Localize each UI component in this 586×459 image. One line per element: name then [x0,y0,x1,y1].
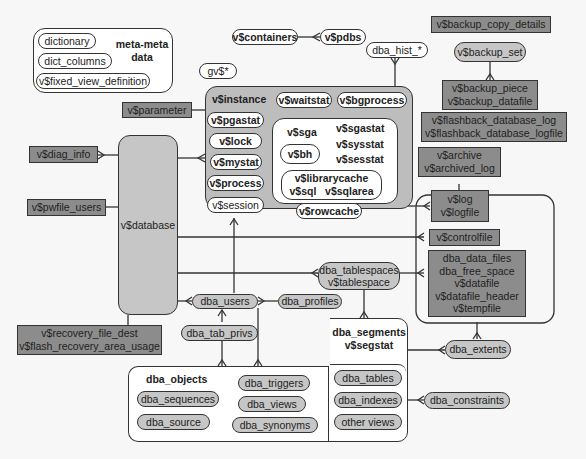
datafile-header-label: v$datafile_header [435,290,518,303]
lock-label: v$lock [219,135,252,147]
sql-label: v$sql [289,185,316,197]
logfile-label: v$logfile [441,206,480,219]
rowcache-node[interactable]: v$rowcache [296,203,362,219]
bh-label: v$bh [288,148,313,160]
backup-datafile-label: v$backup_datafile [448,95,533,108]
dba-triggers-label: dba_triggers [245,377,303,389]
bh-node[interactable]: v$bh [280,144,320,164]
log-node[interactable]: v$log v$logfile [431,190,489,222]
dba-users-label: dba_users [200,295,249,307]
sysstat-label[interactable]: v$sysstat [336,138,384,151]
dba-hist-label: dba_hist_* [372,44,422,56]
tablespaces-node[interactable]: dba_tablespaces v$tablespace [318,262,400,290]
backup-set-label: v$backup_set [458,46,523,58]
oracle-data-dictionary-diagram: dictionary dict_columns v$fixed_view_def… [0,0,586,459]
dba-profiles-node[interactable]: dba_profiles [278,294,342,309]
dba-profiles-label: dba_profiles [281,295,338,307]
parameter-node[interactable]: v$parameter [122,102,192,118]
bgprocess-node[interactable]: v$bgprocess [337,92,407,108]
pgastat-label: v$pgastat [211,114,260,126]
dba-extents-node[interactable]: dba_extents [445,340,511,359]
fixed-view-definition-label: v$fixed_view_definition [39,75,147,87]
datafiles-node[interactable]: dba_data_files dba_free_space v$datafile… [428,250,526,317]
dictionary-node[interactable]: dictionary [38,33,96,49]
diag-info-node[interactable]: v$diag_info [29,146,98,163]
dba-users-node[interactable]: dba_users [192,294,258,309]
backup-piece-node[interactable]: v$backup_piece v$backup_datafile [442,80,538,110]
process-node[interactable]: v$process [207,175,264,191]
dba-tables-label: dba_tables [342,372,393,384]
pwfile-users-node[interactable]: v$pwfile_users [27,199,106,216]
dba-tablespaces-label: dba_tablespaces [319,264,398,276]
dba-views-node[interactable]: dba_views [238,396,306,412]
dba-triggers-node[interactable]: dba_triggers [238,375,310,391]
mystat-node[interactable]: v$mystat [210,154,262,170]
backup-piece-label: v$backup_piece [452,82,528,95]
pwfile-users-label: v$pwfile_users [32,201,101,214]
objects-segments-divider [328,366,329,442]
session-label: v$session [212,199,259,211]
meta-title-line1: meta-meta [112,38,172,51]
dba-objects-title[interactable]: dba_objects [146,373,207,386]
dba-data-files-label: dba_data_files [443,252,511,265]
database-node[interactable]: v$database [118,135,178,315]
session-node[interactable]: v$session [207,197,264,213]
fixed-view-definition-node[interactable]: v$fixed_view_definition [36,73,150,89]
other-views-node[interactable]: other views [334,414,402,430]
containers-node[interactable]: v$containers [232,29,298,45]
parameter-label: v$parameter [128,104,187,117]
dba-indexes-node[interactable]: dba_indexes [334,392,402,408]
dba-extents-label: dba_extents [449,343,506,355]
containers-label: v$containers [233,31,298,43]
dict-columns-node[interactable]: dict_columns [38,53,112,69]
dba-tab-privs-node[interactable]: dba_tab_privs [181,325,258,341]
dba-indexes-label: dba_indexes [338,394,398,406]
dba-segments-title[interactable]: dba_segments v$segstat [331,326,407,351]
sesstat-label[interactable]: v$sesstat [336,153,384,166]
instance-title[interactable]: v$instance [212,93,266,106]
flashback-database-logfile-label: v$flashback_database_logfile [425,127,563,140]
mystat-label: v$mystat [213,156,259,168]
dba-sequences-node[interactable]: dba_sequences [137,391,219,407]
sgastat-label[interactable]: v$sgastat [336,122,384,135]
archive-label: v$archive [437,149,482,162]
diag-info-label: v$diag_info [37,148,91,161]
recovery-node[interactable]: v$recovery_file_dest v$flash_recovery_ar… [17,325,162,355]
gv-label: gv$* [207,65,228,77]
waitstat-node[interactable]: v$waitstat [276,92,332,108]
dba-sequences-label: dba_sequences [141,393,215,405]
dba-tables-node[interactable]: dba_tables [334,370,402,386]
backup-set-node[interactable]: v$backup_set [454,42,526,62]
dba-hist-node[interactable]: dba_hist_* [366,42,428,58]
gv-node[interactable]: gv$* [199,63,237,79]
flashback-database-log-label: v$flashback_database_log [432,114,556,127]
pgastat-node[interactable]: v$pgastat [207,112,264,128]
dba-views-label: dba_views [247,398,297,410]
dict-columns-label: dict_columns [44,55,105,67]
database-label: v$database [121,219,175,231]
dba-tab-privs-label: dba_tab_privs [187,327,253,339]
dba-source-node[interactable]: dba_source [137,414,210,430]
sql-sqlarea-line: v$sql v$sqlarea [289,185,373,198]
dba-synonyms-node[interactable]: dba_synonyms [232,417,318,433]
sqlarea-label: v$sqlarea [325,185,373,197]
librarycache-group[interactable]: v$librarycache v$sql v$sqlarea [281,170,382,200]
tempfile-label: v$tempfile [453,302,501,315]
segstat-label: v$segstat [331,339,407,352]
lock-node[interactable]: v$lock [209,133,262,149]
meta-meta-data-title: meta-meta data [112,38,172,63]
backup-copy-details-node[interactable]: v$backup_copy_details [431,16,551,33]
process-label: v$process [210,177,262,189]
recovery-file-dest-label: v$recovery_file_dest [41,327,137,340]
sga-label[interactable]: v$sga [287,126,317,139]
dba-synonyms-label: dba_synonyms [240,419,311,431]
backup-copy-details-label: v$backup_copy_details [436,18,545,31]
controlfile-node[interactable]: v$controlfile [429,229,500,246]
flashback-node[interactable]: v$flashback_database_log v$flashback_dat… [421,112,567,142]
librarycache-label: v$librarycache [295,172,369,185]
dba-source-label: dba_source [146,416,201,428]
pdbs-node[interactable]: v$pdbs [320,29,366,45]
dba-constraints-node[interactable]: dba_constraints [424,392,510,409]
archive-node[interactable]: v$archive v$archived_log [418,147,501,177]
dba-constraints-label: dba_constraints [430,394,504,406]
